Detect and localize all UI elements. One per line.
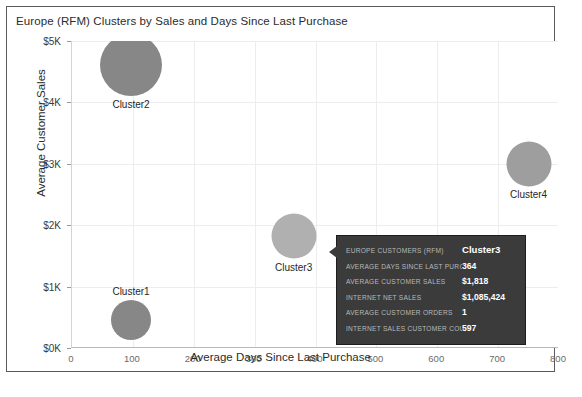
y-tick-label: $5K — [9, 36, 61, 47]
gridline-vertical — [255, 41, 256, 347]
y-tick-label: $4K — [9, 97, 61, 108]
x-axis-title: Average Days Since Last Purchase — [7, 351, 554, 363]
chart-screenshot: Europe (RFM) Clusters by Sales and Days … — [0, 0, 582, 397]
tooltip-key: Average Customer Orders — [346, 306, 462, 321]
tooltip-row: Europe Customers (RFM)Cluster3 — [346, 243, 516, 259]
y-tick-label: $1K — [9, 281, 61, 292]
tooltip-value: Cluster3 — [462, 243, 500, 258]
tooltip-rows: Europe Customers (RFM)Cluster3Average Da… — [346, 243, 516, 336]
tooltip-row: Average Customer Orders1 — [346, 305, 516, 321]
tooltip-value: $1,085,424 — [462, 290, 505, 305]
y-axis-title: Average Customer Sales — [35, 23, 47, 243]
tooltip-value: $1,818 — [462, 274, 488, 289]
data-tooltip: Europe Customers (RFM)Cluster3Average Da… — [336, 235, 526, 345]
bubble-label-cluster3: Cluster3 — [275, 262, 312, 273]
gridline-vertical — [316, 41, 317, 347]
tooltip-key: Average Days Since Last Purchase — [346, 260, 462, 275]
y-tick-label: $3K — [9, 158, 61, 169]
y-tick-mark — [67, 348, 71, 349]
tooltip-row: Internet Sales Customer Count597 — [346, 321, 516, 337]
tooltip-key: Internet Sales Customer Count — [346, 322, 462, 337]
gridline-horizontal — [72, 164, 558, 165]
bubble-cluster2[interactable] — [100, 41, 162, 96]
tooltip-key: Average Customer Sales — [346, 275, 462, 290]
tooltip-key: Europe Customers (RFM) — [346, 244, 462, 259]
bubble-label-cluster1: Cluster1 — [112, 286, 149, 297]
chart-title: Europe (RFM) Clusters by Sales and Days … — [16, 15, 348, 27]
tooltip-value: 364 — [462, 259, 476, 274]
tooltip-key: Internet Net Sales — [346, 291, 462, 306]
gridline-horizontal — [72, 225, 558, 226]
bubble-label-cluster2: Cluster2 — [112, 99, 149, 110]
tooltip-pointer-icon — [329, 246, 337, 258]
bubble-cluster1[interactable] — [111, 300, 151, 340]
bubble-cluster3[interactable] — [271, 214, 316, 259]
tooltip-row: Average Days Since Last Purchase364 — [346, 259, 516, 275]
tooltip-value: 1 — [462, 305, 467, 320]
bubble-cluster4[interactable] — [506, 141, 551, 186]
tooltip-value: 597 — [462, 321, 476, 336]
tooltip-row: Internet Net Sales$1,085,424 — [346, 290, 516, 306]
bubble-label-cluster4: Cluster4 — [510, 189, 547, 200]
tooltip-row: Average Customer Sales$1,818 — [346, 274, 516, 290]
y-tick-label: $2K — [9, 220, 61, 231]
gridline-vertical — [194, 41, 195, 347]
chart-frame: Europe (RFM) Clusters by Sales and Days … — [6, 6, 555, 372]
